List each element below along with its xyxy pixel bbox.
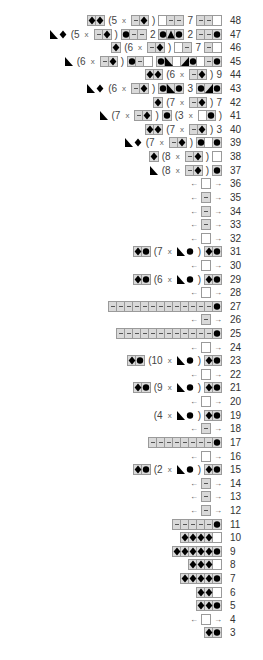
row-stitches bbox=[180, 532, 222, 543]
stitch-group bbox=[204, 42, 222, 53]
repeat-text: (6 bbox=[124, 42, 133, 53]
stitch-group bbox=[204, 464, 222, 475]
triangle-right-icon bbox=[181, 57, 189, 66]
diamond-icon bbox=[154, 98, 162, 107]
row-number: 44 bbox=[230, 68, 241, 81]
triangle-up-icon bbox=[167, 30, 175, 39]
arrow-right-icon: → bbox=[214, 206, 222, 217]
row-stitches: ←→ bbox=[190, 369, 222, 380]
chart-row: 27 bbox=[0, 300, 263, 314]
diamond-icon bbox=[205, 574, 213, 583]
dot-icon bbox=[163, 111, 171, 120]
repeat-text: (4 bbox=[154, 410, 163, 421]
arrow-left-icon: ← bbox=[190, 342, 198, 353]
repeat-text: (10 bbox=[148, 355, 162, 366]
dot-icon bbox=[213, 329, 221, 338]
arrow-left-icon: ← bbox=[190, 219, 198, 230]
row-number: 14 bbox=[230, 477, 241, 490]
knit-blank-icon bbox=[199, 111, 207, 120]
arrow-left-icon: ← bbox=[190, 423, 198, 434]
purl-dash-icon bbox=[173, 329, 181, 338]
purl-dash-icon bbox=[135, 111, 143, 120]
chart-row: (4x)19 bbox=[0, 409, 263, 423]
row-stitches: ←→ bbox=[190, 314, 222, 325]
arrow-right-icon: → bbox=[214, 192, 222, 203]
row-number: 29 bbox=[230, 273, 241, 286]
row-number: 5 bbox=[230, 599, 236, 612]
dot-icon bbox=[213, 356, 221, 365]
repeat-text: ) bbox=[152, 15, 155, 26]
repeat-text: ) bbox=[168, 42, 171, 53]
knit-blank-icon bbox=[202, 343, 210, 352]
dot-icon bbox=[175, 30, 183, 39]
dot-icon bbox=[213, 84, 221, 93]
repeat-text: (6 bbox=[77, 56, 86, 67]
chart-row: (10x)23 bbox=[0, 354, 263, 368]
triangle-left-icon bbox=[177, 383, 186, 392]
stitch-group bbox=[177, 465, 195, 474]
stitch-group bbox=[185, 151, 203, 162]
stitch-group bbox=[201, 219, 211, 230]
stitch-group bbox=[169, 137, 187, 148]
repeat-text: (6 bbox=[108, 83, 117, 94]
times-sign: x bbox=[122, 16, 126, 25]
repeat-text: ) bbox=[115, 29, 118, 40]
repeat-text: (2 bbox=[154, 464, 163, 475]
purl-dash-icon bbox=[101, 57, 109, 66]
stitch-group bbox=[131, 83, 149, 94]
row-number: 3 bbox=[230, 626, 236, 639]
row-number: 9 bbox=[230, 545, 236, 558]
diamond-icon bbox=[146, 70, 154, 79]
arrow-left-icon: ← bbox=[190, 614, 198, 625]
repeat-text: 7 bbox=[187, 15, 193, 26]
times-sign: x bbox=[168, 247, 172, 256]
arrow-right-icon: → bbox=[214, 396, 222, 407]
diamond-icon bbox=[96, 16, 104, 25]
diamond-icon bbox=[134, 138, 143, 147]
diamond-icon bbox=[181, 547, 189, 556]
arrow-left-icon: ← bbox=[190, 478, 198, 489]
dot-icon bbox=[128, 57, 136, 66]
diamond-icon bbox=[205, 588, 213, 597]
diamond-icon bbox=[156, 43, 164, 52]
chart-row: (2x)15 bbox=[0, 463, 263, 477]
stitch-group bbox=[65, 57, 74, 66]
stitch-group bbox=[189, 124, 207, 135]
dot-icon bbox=[213, 438, 221, 447]
stitch-group bbox=[201, 314, 211, 325]
purl-dash-icon bbox=[132, 16, 140, 25]
chart-row: 11 bbox=[0, 518, 263, 532]
stitch-group bbox=[148, 437, 222, 448]
dot-icon bbox=[142, 247, 150, 256]
purl-dash-icon bbox=[205, 43, 213, 52]
dot-icon bbox=[175, 84, 183, 93]
stitch-group bbox=[149, 151, 159, 162]
triangle-left-icon bbox=[177, 247, 186, 256]
stitch-group bbox=[145, 124, 163, 135]
purl-dash-icon bbox=[181, 438, 189, 447]
purl-dash-icon bbox=[173, 520, 181, 529]
purl-dash-icon bbox=[189, 329, 197, 338]
dot-icon bbox=[189, 57, 197, 66]
chart-row: ←→12 bbox=[0, 504, 263, 518]
repeat-text: ) bbox=[219, 110, 222, 121]
stitch-group bbox=[147, 42, 165, 53]
stitch-group bbox=[174, 42, 192, 53]
chart-row: (7x)(3x)41 bbox=[0, 109, 263, 123]
diamond-icon bbox=[134, 465, 142, 474]
row-number: 37 bbox=[230, 164, 241, 177]
purl-dash-icon bbox=[202, 220, 210, 229]
knit-blank-icon bbox=[197, 57, 205, 66]
chart-row: 17 bbox=[0, 436, 263, 450]
stitch-group bbox=[162, 110, 172, 121]
diamond-icon bbox=[59, 30, 68, 39]
row-number: 28 bbox=[230, 286, 241, 299]
purl-dash-icon bbox=[173, 302, 181, 311]
dot-icon bbox=[213, 628, 221, 637]
chart-row: (6x)746 bbox=[0, 41, 263, 55]
repeat-text: ) bbox=[198, 382, 201, 393]
arrow-right-icon: → bbox=[214, 178, 222, 189]
row-number: 10 bbox=[230, 531, 241, 544]
triangle-left-icon bbox=[125, 138, 134, 147]
row-stitches bbox=[188, 559, 222, 570]
